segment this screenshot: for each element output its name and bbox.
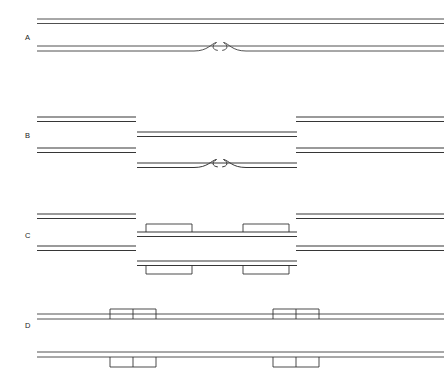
strand-B-top-right (296, 117, 444, 122)
nick-end-left (137, 160, 218, 168)
panel-label-group: ABCD (25, 33, 31, 330)
box-outline (243, 266, 289, 275)
bound-box-D-box-3[interactable] (110, 357, 156, 367)
strand-C-top-right (296, 214, 444, 219)
panel-label-b: B (25, 131, 30, 140)
strand-A-top (37, 19, 444, 24)
strand-B-bottom-middle (137, 160, 297, 168)
bound-box-D-box-4[interactable] (273, 357, 319, 367)
strand-D-top (37, 314, 444, 319)
bound-protein-box-group (110, 224, 319, 367)
strand-group (37, 19, 444, 357)
dna-replication-diagram: ABCD (0, 0, 444, 378)
strand-C-bottom-left (37, 246, 136, 251)
panel-label-c: C (25, 231, 31, 240)
figure-canvas: ABCD (0, 0, 444, 378)
box-outline (146, 224, 192, 232)
box-outline (243, 224, 289, 232)
bound-box-C-box-2[interactable] (243, 224, 289, 232)
strand-D-bottom (37, 352, 444, 357)
strand-A-bottom (37, 43, 444, 52)
nick-end-left (37, 43, 218, 52)
strand-C-bottom-right (296, 246, 444, 251)
bound-box-C-box-4[interactable] (243, 266, 289, 275)
strand-B-top-left (37, 117, 136, 122)
strand-C-bottom-middle (137, 261, 297, 266)
panel-label-a: A (25, 33, 30, 42)
box-outline (146, 266, 192, 275)
strand-C-top-left (37, 214, 136, 219)
panel-label-d: D (25, 321, 31, 330)
nick-end-right (222, 160, 297, 168)
strand-B-bottom-right (296, 148, 444, 153)
strand-B-bottom-left (37, 148, 136, 153)
bound-box-C-box-3[interactable] (146, 266, 192, 275)
strand-C-top-middle (137, 232, 297, 237)
nick-end-right (222, 43, 444, 52)
strand-B-top-middle (137, 132, 297, 137)
bound-box-C-box-1[interactable] (146, 224, 192, 232)
